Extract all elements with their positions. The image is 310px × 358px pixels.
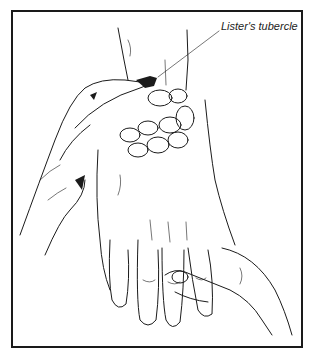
hand-illustration (0, 0, 310, 358)
label-leader-line (158, 31, 219, 77)
listers-tubercle-label: Lister's tubercle (221, 20, 298, 32)
